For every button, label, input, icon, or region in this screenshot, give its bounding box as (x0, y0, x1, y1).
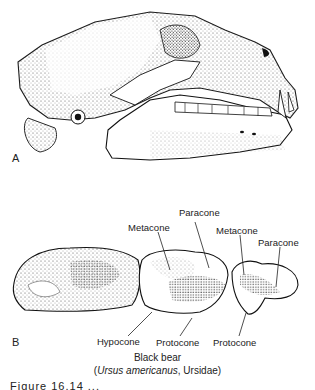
label-paracone-p4: Paracone (258, 237, 299, 248)
caption-common-name: Black bear (0, 352, 315, 363)
molars-illustration (0, 0, 315, 390)
panel-b-letter: B (12, 336, 19, 348)
label-hypocone: Hypocone (97, 336, 140, 347)
scientific-name: Ursus americanus (97, 365, 178, 376)
label-metacone-m1: Metacone (128, 222, 170, 233)
label-metacone-p4: Metacone (216, 225, 258, 236)
label-protocone-p4: Protocone (213, 337, 256, 348)
caption-scientific-name: (Ursus americanus, Ursidae) (0, 365, 315, 376)
truncated-figure-caption: Figure 16.14 ... (10, 380, 100, 390)
label-paracone-m1: Paracone (179, 207, 220, 218)
label-protocone-m1: Protocone (156, 337, 199, 348)
